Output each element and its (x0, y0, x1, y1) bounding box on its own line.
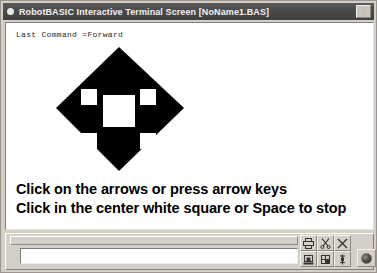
close-screen-button[interactable] (334, 235, 351, 251)
panel-separator (10, 236, 298, 245)
title-bar[interactable]: RobotBASIC Interactive Terminal Screen [… (3, 3, 374, 20)
direction-pad-diamond[interactable] (55, 46, 185, 172)
folder-icon (320, 254, 331, 265)
down-left-square[interactable] (81, 133, 97, 149)
diamond-graphic (55, 46, 185, 172)
pin-icon (337, 254, 348, 265)
app-window: RobotBASIC Interactive Terminal Screen [… (0, 0, 377, 273)
paste-button[interactable] (334, 251, 351, 267)
toolbar-icon-grid (300, 235, 351, 268)
save-button[interactable] (300, 251, 317, 267)
command-input[interactable] (20, 248, 298, 264)
close-icon (363, 7, 364, 16)
app-icon (7, 8, 14, 15)
printer-icon (303, 238, 314, 249)
bottom-panel (5, 233, 374, 270)
up-left-square[interactable] (81, 89, 97, 105)
power-button[interactable] (357, 249, 376, 267)
instruction-line-1: Click on the arrows or press arrow keys (16, 180, 372, 199)
x-icon (337, 238, 348, 249)
window-title: RobotBASIC Interactive Terminal Screen [… (19, 7, 356, 17)
center-stop-square[interactable] (103, 95, 135, 127)
save-icon (303, 254, 314, 265)
circle-icon (361, 253, 372, 264)
close-button[interactable] (356, 5, 371, 18)
up-right-square[interactable] (140, 89, 156, 105)
print-button[interactable] (300, 235, 317, 251)
last-command-text: Last Command =Forward (16, 30, 123, 39)
instruction-line-2: Click in the center white square or Spac… (16, 199, 372, 218)
terminal-screen[interactable]: Last Command =Forward Click on the arrow… (5, 22, 374, 230)
open-button[interactable] (317, 251, 334, 267)
instructions-block: Click on the arrows or press arrow keys … (16, 180, 372, 218)
scissors-icon (320, 238, 331, 249)
down-right-square[interactable] (140, 133, 156, 149)
cut-button[interactable] (317, 235, 334, 251)
